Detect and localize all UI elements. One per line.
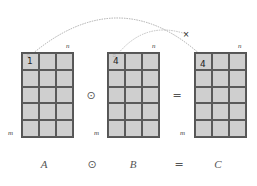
matrix-cell	[229, 120, 246, 137]
matrix-a-cell-highlight: □ 1	[22, 53, 39, 70]
matrix-cell	[229, 87, 246, 104]
matrix-a: □ 1	[21, 52, 74, 138]
equation-hadamard-icon: ⊙	[87, 158, 96, 171]
matrix-cell	[142, 120, 159, 137]
matrix-cell	[56, 103, 73, 120]
multiply-marker-icon: ×	[183, 30, 190, 39]
matrix-c-cols-label: n	[238, 42, 242, 50]
cell-value: 4	[200, 60, 206, 69]
matrix-cell	[212, 120, 229, 137]
matrix-cell	[212, 53, 229, 70]
hadamard-operator-icon: ⊙	[86, 89, 95, 102]
equation-label-a: A	[41, 158, 48, 170]
matrix-cell	[125, 120, 142, 137]
matrix-cell	[212, 87, 229, 104]
matrix-cell	[22, 70, 39, 87]
matrix-cell	[195, 87, 212, 104]
matrix-cell	[195, 120, 212, 137]
matrix-c: 4	[194, 52, 247, 138]
matrix-cell	[142, 70, 159, 87]
matrix-cell	[142, 53, 159, 70]
matrix-cell	[125, 103, 142, 120]
matrix-cell	[108, 87, 125, 104]
matrix-cell	[125, 53, 142, 70]
matrix-a-cols-label: n	[66, 42, 70, 50]
matrix-cell	[56, 70, 73, 87]
matrix-cell	[229, 53, 246, 70]
matrix-b: □ 4	[107, 52, 160, 138]
matrix-b-rows-label: m	[94, 129, 99, 137]
matrix-cell	[22, 120, 39, 137]
matrix-cell	[125, 70, 142, 87]
matrix-cell	[39, 53, 56, 70]
matrix-cell	[125, 87, 142, 104]
matrix-b-cell-highlight: □ 4	[108, 53, 125, 70]
matrix-cell	[229, 103, 246, 120]
matrix-cell	[39, 87, 56, 104]
matrix-cell	[108, 120, 125, 137]
equation-label-b: B	[130, 158, 137, 170]
matrix-a-rows-label: m	[8, 129, 13, 137]
matrix-cell	[212, 70, 229, 87]
matrix-cell	[142, 87, 159, 104]
matrix-cell	[39, 120, 56, 137]
matrix-c-rows-label: m	[180, 129, 185, 137]
equation-label-c: C	[214, 158, 221, 170]
cell-value: 1	[27, 57, 33, 66]
matrix-cell	[142, 103, 159, 120]
matrix-cell	[195, 103, 212, 120]
matrix-cell	[39, 70, 56, 87]
matrix-c-cell-highlight: 4	[195, 53, 212, 70]
matrix-cell	[108, 103, 125, 120]
matrix-cell	[22, 87, 39, 104]
matrix-b-cols-label: n	[152, 42, 156, 50]
matrix-cell	[22, 103, 39, 120]
cell-value: 4	[113, 57, 119, 66]
matrix-cell	[195, 70, 212, 87]
matrix-cell	[212, 103, 229, 120]
matrix-cell	[56, 53, 73, 70]
matrix-cell	[39, 103, 56, 120]
matrix-cell	[56, 120, 73, 137]
matrix-cell	[108, 70, 125, 87]
matrix-cell	[56, 87, 73, 104]
matrix-cell	[229, 70, 246, 87]
equation-equals-icon: =	[174, 158, 183, 171]
hadamard-diagram: × □ 1 n m ⊙ □ 4	[0, 0, 257, 186]
equals-operator-icon: =	[172, 89, 181, 102]
